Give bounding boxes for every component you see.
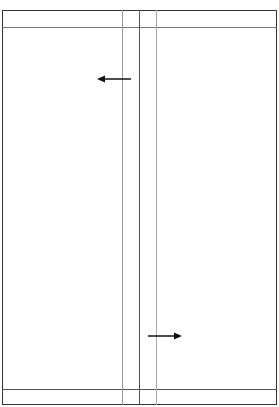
arrows-layer bbox=[0, 0, 279, 407]
right-arrow-icon bbox=[148, 333, 182, 340]
left-arrow-icon bbox=[97, 76, 131, 83]
